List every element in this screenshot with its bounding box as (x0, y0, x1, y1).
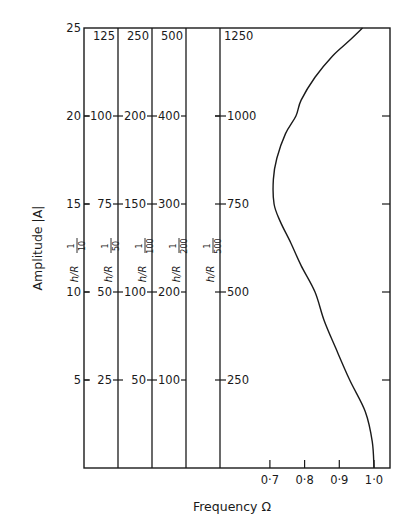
svg-text:h/R: h/R (171, 266, 182, 283)
svg-text:500: 500 (214, 238, 223, 253)
x-tick-label: 0·7 (261, 473, 279, 487)
scale-tick-label: 150 (124, 197, 146, 211)
scale-tick-label: 500 (161, 29, 183, 43)
scale-tick-label: 100 (124, 285, 146, 299)
x-tick-label: 0·8 (295, 473, 313, 487)
y-tick-label: 20 (66, 109, 81, 123)
frame-rect (84, 28, 390, 468)
chart: 5101520252550751001255010015020025010020… (0, 0, 414, 532)
scale-tick-label: 50 (97, 285, 112, 299)
scale-tick-label: 125 (93, 29, 115, 43)
svg-text:1: 1 (135, 243, 144, 248)
svg-text:h/R: h/R (205, 266, 216, 283)
scale-tick-label: 100 (158, 373, 180, 387)
scale-tick-label: 250 (227, 373, 249, 387)
scale-tick-label: 50 (131, 373, 146, 387)
x-tick-label: 1·0 (365, 473, 383, 487)
scale-tick-label: 400 (158, 109, 180, 123)
svg-text:100: 100 (146, 238, 155, 253)
svg-text:1: 1 (101, 243, 110, 248)
svg-text:h/R: h/R (103, 266, 114, 283)
scale-tick-label: 1250 (224, 29, 253, 43)
y-tick-label: 15 (66, 197, 81, 211)
scale-tick-label: 1000 (227, 109, 256, 123)
scale-tick-label: 200 (158, 285, 180, 299)
scale-tick-label: 300 (158, 197, 180, 211)
scale-tick-label: 75 (97, 197, 112, 211)
y-tick-label: 5 (74, 373, 81, 387)
scale-tick-label: 250 (127, 29, 149, 43)
svg-text:50: 50 (112, 241, 121, 251)
svg-text:1: 1 (203, 243, 212, 248)
svg-text:1: 1 (169, 243, 178, 248)
x-axis-ticks: 0·70·80·91·0 (261, 460, 383, 487)
scale-ticks (84, 116, 390, 380)
y-tick-label: 25 (66, 21, 81, 35)
amplitude-frequency-curve (273, 28, 374, 468)
scale-tick-label: 500 (227, 285, 249, 299)
scale-tick-label: 200 (124, 109, 146, 123)
svg-text:10: 10 (78, 241, 87, 251)
svg-text:1: 1 (67, 243, 76, 248)
scale-tick-label: 100 (90, 109, 112, 123)
scale-tick-label: 25 (97, 373, 112, 387)
y-axis-title: Amplitude |A| (30, 205, 45, 290)
svg-text:h/R: h/R (137, 266, 148, 283)
x-axis-title: Frequency Ω (193, 499, 272, 514)
scale-tick-labels: 5101520252550751001255010015020025010020… (66, 21, 256, 387)
svg-text:200: 200 (180, 238, 189, 253)
x-tick-label: 0·9 (330, 473, 348, 487)
svg-text:h/R: h/R (69, 266, 80, 283)
plot-frame (84, 28, 390, 468)
y-tick-label: 10 (66, 285, 81, 299)
scale-tick-label: 750 (227, 197, 249, 211)
hr-ratio-labels: h/R110h/R150h/R1100h/R1200h/R1500 (67, 238, 223, 282)
